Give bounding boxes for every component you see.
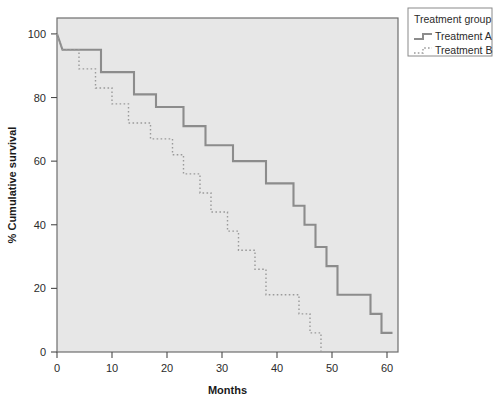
y-tick-label: 100 bbox=[28, 28, 46, 40]
plot-area-background bbox=[57, 18, 398, 352]
y-tick-label: 0 bbox=[40, 346, 46, 358]
x-tick-label: 60 bbox=[381, 362, 393, 374]
kaplan-meier-figure: 0102030405060 020406080100 Months % Cumu… bbox=[0, 0, 498, 407]
legend-label-treatment-a: Treatment A bbox=[435, 30, 492, 42]
y-tick-label: 60 bbox=[34, 155, 46, 167]
legend-label-treatment-b: Treatment B bbox=[435, 44, 492, 56]
x-axis-title: Months bbox=[208, 384, 247, 396]
y-axis-title: % Cumulative survival bbox=[6, 127, 18, 244]
x-tick-label: 30 bbox=[216, 362, 228, 374]
x-tick-label: 40 bbox=[271, 362, 283, 374]
y-tick-label: 80 bbox=[34, 92, 46, 104]
x-tick-label: 0 bbox=[54, 362, 60, 374]
legend-title: Treatment group bbox=[414, 13, 491, 25]
chart-legend: Treatment group Treatment ATreatment B bbox=[408, 8, 492, 56]
y-tick-label: 20 bbox=[34, 282, 46, 294]
y-tick-label: 40 bbox=[34, 219, 46, 231]
x-tick-label: 10 bbox=[106, 362, 118, 374]
x-tick-label: 20 bbox=[161, 362, 173, 374]
survival-chart-svg: 0102030405060 020406080100 Months % Cumu… bbox=[0, 0, 498, 407]
x-tick-label: 50 bbox=[326, 362, 338, 374]
